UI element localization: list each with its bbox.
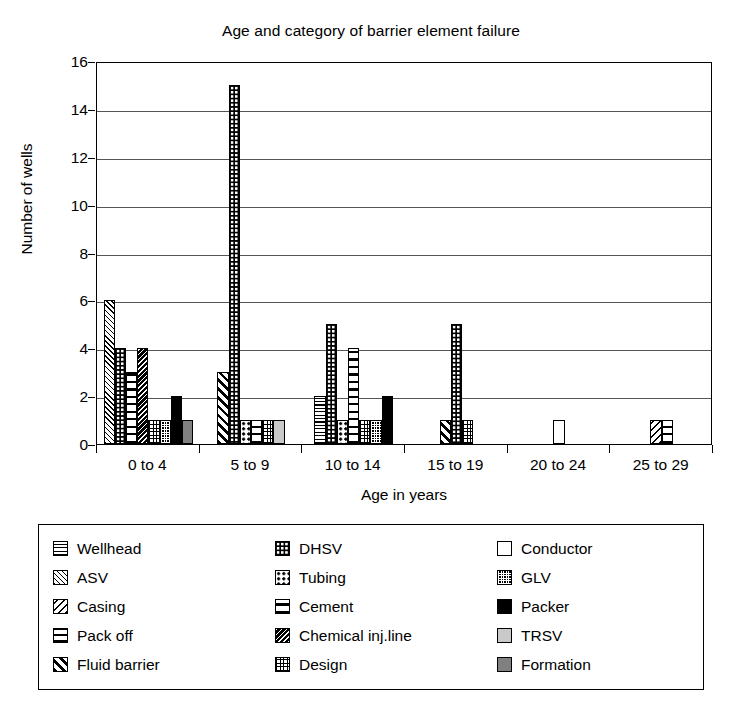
legend-item[interactable]: Packer [497, 599, 691, 615]
bar [440, 420, 451, 444]
bar [171, 396, 182, 444]
x-axis-title: Age in years [96, 486, 712, 504]
legend-swatch-chemical-inj-line [275, 628, 290, 643]
legend-label: Wellhead [77, 541, 141, 557]
legend-swatch-casing [53, 599, 68, 614]
legend-swatch-trsv [497, 628, 512, 643]
legend-item[interactable]: GLV [497, 570, 691, 586]
legend-grid: WellheadDHSVConductorASVTubingGLVCasingC… [53, 534, 691, 680]
bar [240, 420, 251, 444]
plot-area [96, 62, 712, 445]
legend-item[interactable]: Formation [497, 657, 691, 673]
legend-label: Design [299, 657, 347, 673]
bar [451, 324, 462, 444]
legend-swatch-cement [275, 599, 290, 614]
bar [662, 420, 673, 444]
legend-swatch-asv [53, 570, 68, 585]
legend-label: DHSV [299, 541, 342, 557]
y-axis-title: Number of wells [18, 74, 36, 324]
x-axis-tick [609, 445, 610, 453]
legend-item[interactable]: Tubing [275, 570, 497, 586]
y-axis-tick-label: 6 [46, 293, 88, 309]
legend-swatch-design [275, 657, 290, 672]
y-axis-tick [88, 206, 95, 207]
legend-item[interactable]: Fluid barrier [53, 657, 275, 673]
bar [326, 324, 337, 444]
y-axis-tick-label: 4 [46, 341, 88, 357]
legend-label: Formation [521, 657, 591, 673]
chart-page: Age and category of barrier element fail… [0, 0, 742, 725]
legend-item[interactable]: Design [275, 657, 497, 673]
bar [314, 396, 325, 444]
y-axis-tick [88, 349, 95, 350]
y-axis-tick-label: 12 [46, 150, 88, 166]
legend-label: Casing [77, 599, 125, 615]
y-axis-tick-label: 14 [46, 102, 88, 118]
y-axis-tick-label: 10 [46, 198, 88, 214]
y-axis-tick-label: 2 [46, 389, 88, 405]
y-axis-tick [88, 397, 95, 398]
legend-swatch-dhsv [275, 541, 290, 556]
legend: WellheadDHSVConductorASVTubingGLVCasingC… [38, 524, 704, 690]
y-axis-tick [88, 110, 95, 111]
legend-label: Fluid barrier [77, 657, 160, 673]
legend-item[interactable]: DHSV [275, 541, 497, 557]
legend-swatch-glv [497, 570, 512, 585]
bar [337, 420, 348, 444]
x-axis-category-label: 25 to 29 [601, 456, 721, 474]
bar [104, 300, 115, 444]
y-axis-tick [88, 301, 95, 302]
y-axis-tick [88, 254, 95, 255]
y-axis-tick-label: 16 [46, 54, 88, 70]
legend-label: ASV [77, 570, 108, 586]
x-axis-tick [199, 445, 200, 453]
x-axis-tick [507, 445, 508, 453]
bar [148, 420, 159, 444]
bar [229, 85, 240, 444]
legend-swatch-formation [497, 657, 512, 672]
y-axis-tick-label: 0 [46, 437, 88, 453]
legend-label: Packer [521, 599, 569, 615]
bar [553, 420, 564, 444]
x-axis-tick [96, 445, 97, 453]
legend-item[interactable]: Conductor [497, 541, 691, 557]
legend-item[interactable]: Pack off [53, 628, 275, 644]
bar [273, 420, 284, 444]
y-axis-tick [88, 158, 95, 159]
bar [262, 420, 273, 444]
bar [462, 420, 473, 444]
legend-swatch-tubing [275, 570, 290, 585]
legend-swatch-fluid-barrier [53, 657, 68, 672]
chart-title: Age and category of barrier element fail… [0, 22, 742, 40]
legend-swatch-wellhead [53, 541, 68, 556]
y-axis-tick [88, 62, 95, 63]
legend-item[interactable]: Cement [275, 599, 497, 615]
bar [217, 372, 228, 444]
x-axis-tick [301, 445, 302, 453]
legend-item[interactable]: ASV [53, 570, 275, 586]
bar [115, 348, 126, 444]
bar [251, 420, 262, 444]
x-axis-tick [712, 445, 713, 453]
legend-label: TRSV [521, 628, 562, 644]
legend-label: Chemical inj.line [299, 628, 412, 644]
legend-item[interactable]: Chemical inj.line [275, 628, 497, 644]
bar [126, 372, 137, 444]
legend-label: Tubing [299, 570, 346, 586]
legend-swatch-pack-off [53, 628, 68, 643]
legend-label: Pack off [77, 628, 133, 644]
bar [359, 420, 370, 444]
bar [160, 420, 171, 444]
bar [348, 348, 359, 444]
legend-item[interactable]: Casing [53, 599, 275, 615]
y-axis-tick [88, 445, 95, 446]
bar [382, 396, 393, 444]
legend-label: Conductor [521, 541, 593, 557]
y-axis-tick-label: 8 [46, 246, 88, 262]
legend-label: Cement [299, 599, 353, 615]
legend-swatch-conductor [497, 541, 512, 556]
bar [137, 348, 148, 444]
legend-item[interactable]: TRSV [497, 628, 691, 644]
legend-item[interactable]: Wellhead [53, 541, 275, 557]
x-axis-tick [404, 445, 405, 453]
